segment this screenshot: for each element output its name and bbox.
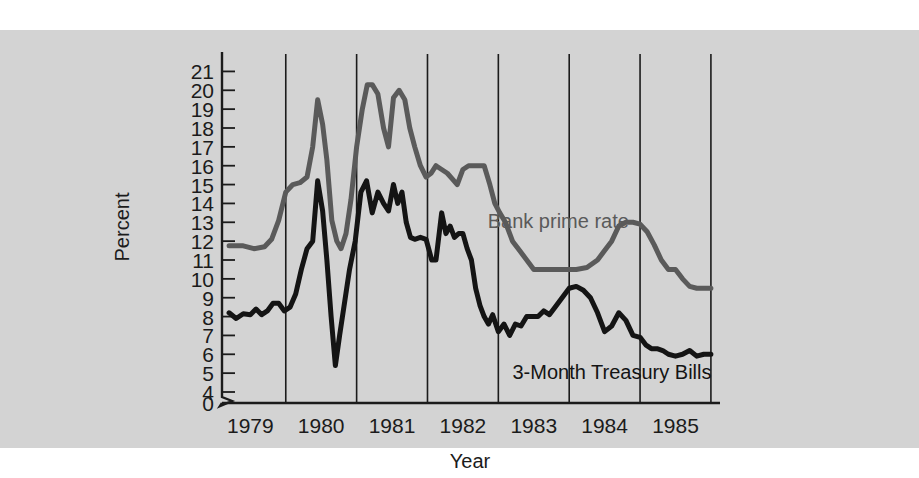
x-tick-label: 1982 (440, 415, 487, 436)
interest-rates-line-chart: 2120191817161514131211109876540 19791980… (0, 0, 919, 478)
y-tick-label: 0 (170, 393, 214, 414)
x-tick-label: 1980 (298, 415, 345, 436)
x-axis-title: Year (450, 451, 490, 471)
x-tick-label: 1979 (227, 415, 274, 436)
x-tick-label: 1981 (369, 415, 416, 436)
y-axis-title: Percent (112, 193, 132, 262)
x-tick-label: 1984 (581, 415, 628, 436)
y-axis-break-symbol (220, 394, 232, 406)
plot-area (0, 0, 919, 478)
series-line-treasury-bills (229, 181, 711, 366)
x-tick-label: 1985 (652, 415, 699, 436)
series-label-treasury-bills: 3-Month Treasury Bills (513, 362, 712, 382)
series-label-bank-prime-rate: Bank prime rate (488, 211, 629, 231)
x-tick-label: 1983 (510, 415, 557, 436)
